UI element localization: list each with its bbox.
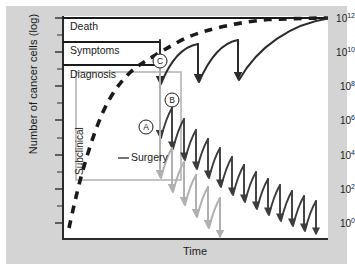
symptoms-label: Symptoms <box>70 44 120 56</box>
surgery-label: Surgery <box>131 151 168 163</box>
chart-graphics <box>0 0 355 279</box>
marker-c-label: C <box>153 54 168 69</box>
marker-a-label: A <box>139 120 154 135</box>
death-label: Death <box>70 20 98 32</box>
marker-b-label: B <box>165 93 180 108</box>
curve-c-resistant <box>160 19 328 85</box>
cancer-cell-kinetics-figure: 1012 1010 108 106 104 102 100 Number of … <box>0 0 355 279</box>
curve-surgery-adjuvant <box>160 66 220 236</box>
subclinical-label: Subclinical <box>74 127 85 175</box>
y-axis-major-ticks <box>55 18 62 223</box>
diagnosis-label: Diagnosis <box>70 68 116 80</box>
